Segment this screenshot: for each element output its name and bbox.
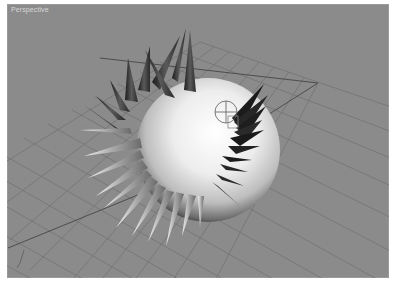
viewport-label[interactable]: Perspective: [11, 6, 49, 13]
viewport-scene[interactable]: [7, 4, 389, 278]
spike: [184, 30, 196, 92]
axis-tripod-icon: [17, 250, 24, 268]
perspective-viewport[interactable]: Perspective: [7, 4, 389, 278]
sphere[interactable]: [136, 78, 280, 222]
